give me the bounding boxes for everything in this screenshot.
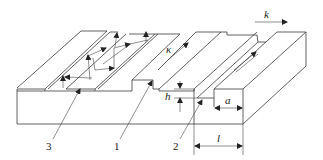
waveguide-diagram: κ h a l k xyxy=(0,0,323,160)
l-label: l xyxy=(217,132,220,144)
callout-1: 1 xyxy=(114,140,120,152)
callout-3: 3 xyxy=(46,140,52,152)
dimension-l: l xyxy=(194,124,243,155)
dimension-a: a xyxy=(215,94,242,108)
wave-vector-k: k xyxy=(255,8,287,22)
a-label: a xyxy=(225,94,231,106)
substrate xyxy=(17,89,243,124)
channel-waveguide-2 xyxy=(194,32,306,124)
callout-2: 2 xyxy=(173,140,179,152)
slab-waveguide-3 xyxy=(17,31,158,91)
dimension-h: h xyxy=(165,81,197,112)
kappa-label: κ xyxy=(166,43,172,55)
h-label: h xyxy=(165,90,171,102)
callouts: 3 1 2 xyxy=(46,81,202,152)
k-label: k xyxy=(264,8,270,20)
